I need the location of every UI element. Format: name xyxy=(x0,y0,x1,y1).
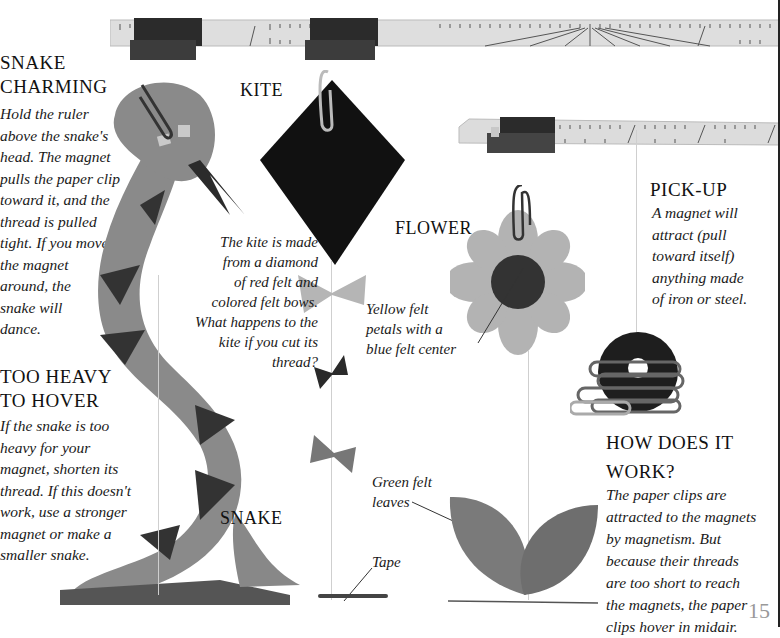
caption-line: Yellow felt xyxy=(366,299,456,319)
ruler-right-thread xyxy=(636,130,637,345)
paper-clips-image xyxy=(570,330,685,425)
kite-caption: The kite is made from a diamond of red f… xyxy=(140,232,318,372)
body-line: the magnets, the paper xyxy=(606,594,756,616)
caption-line: from a diamond xyxy=(140,252,318,272)
flower-pointer-line xyxy=(476,265,526,345)
pick-up-body: A magnet will attract (pull toward itsel… xyxy=(652,202,747,310)
caption-line: Green felt xyxy=(372,472,432,492)
body-line: because their threads xyxy=(606,550,756,572)
kite-tape-base xyxy=(318,594,388,598)
how-does-it-work-heading: HOW DOES IT WORK? xyxy=(606,428,734,486)
caption-line: of red felt and xyxy=(140,272,318,292)
body-line: of iron or steel. xyxy=(652,288,747,310)
page-number: 15 xyxy=(748,598,770,624)
body-line: clips hover in midair. xyxy=(606,616,756,638)
snake-label: SNAKE xyxy=(220,508,283,529)
ruler-top xyxy=(110,16,780,52)
body-line: are too short to reach xyxy=(606,572,756,594)
pick-up-heading: PICK-UP xyxy=(650,178,727,202)
caption-line: kite if you cut its xyxy=(140,332,318,352)
felt-leaves-image xyxy=(448,495,598,605)
kite-bow-3 xyxy=(310,435,358,475)
kite-bow-2 xyxy=(314,355,350,391)
body-line: The paper clips are xyxy=(606,484,756,506)
body-line: attracted to the magnets xyxy=(606,506,756,528)
caption-line: The kite is made xyxy=(140,232,318,252)
body-line: toward itself) xyxy=(652,245,747,267)
caption-line: blue felt center xyxy=(366,339,456,359)
body-line: A magnet will xyxy=(652,202,747,224)
caption-line: colored felt bows. xyxy=(140,292,318,312)
body-line: anything made xyxy=(652,267,747,289)
caption-line: thread? xyxy=(140,352,318,372)
heading-line: WORK? xyxy=(606,457,734,486)
heading-line: HOW DOES IT xyxy=(606,428,734,457)
caption-line: What happens to the xyxy=(140,312,318,332)
body-line: by magnetism. But xyxy=(606,528,756,550)
tape-caption: Tape xyxy=(372,552,401,572)
heading-line: SNAKE xyxy=(0,51,107,75)
flower-caption: Yellow felt petals with a blue felt cent… xyxy=(366,299,456,359)
body-line: attract (pull xyxy=(652,224,747,246)
ruler-right xyxy=(455,113,780,158)
how-does-it-work-body: The paper clips are attracted to the mag… xyxy=(606,484,756,638)
caption-line: petals with a xyxy=(366,319,456,339)
